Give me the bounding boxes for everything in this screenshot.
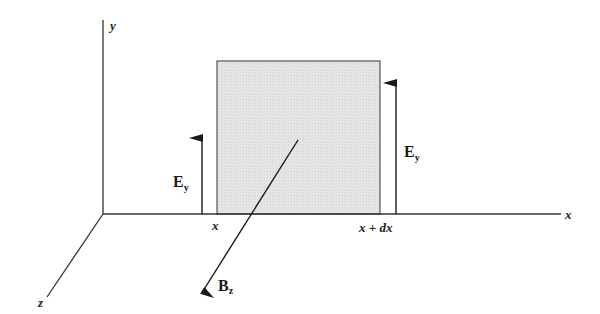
- left-edge-label: x: [211, 218, 219, 233]
- right-edge-label: x + dx: [358, 220, 393, 235]
- e-left-label: Ey: [173, 173, 189, 193]
- z-axis: [47, 214, 103, 297]
- e-right-label: Ey: [404, 143, 420, 163]
- z-axis-label: z: [37, 295, 44, 310]
- element-rectangle: [217, 61, 380, 214]
- b-label: Bz: [218, 277, 234, 296]
- x-axis-label: x: [564, 207, 572, 222]
- diagram-canvas: y x z x x + dx Ey Ey Bz: [0, 0, 600, 314]
- y-axis-label: y: [108, 18, 116, 33]
